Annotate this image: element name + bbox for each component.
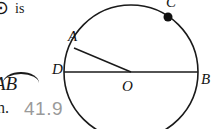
point-c-dot-icon	[164, 13, 173, 22]
radius-segment-ao	[74, 48, 131, 72]
circle-diagram	[0, 0, 216, 129]
point-label-a: A	[68, 29, 77, 44]
point-label-c: C	[166, 0, 176, 10]
geometry-figure-screenshot: ⊙ is AB n. 41.9 A B C D O	[0, 0, 216, 129]
point-label-d: D	[52, 62, 63, 77]
point-label-o: O	[122, 79, 133, 94]
point-label-b: B	[201, 72, 210, 87]
circle-outline	[64, 5, 198, 129]
